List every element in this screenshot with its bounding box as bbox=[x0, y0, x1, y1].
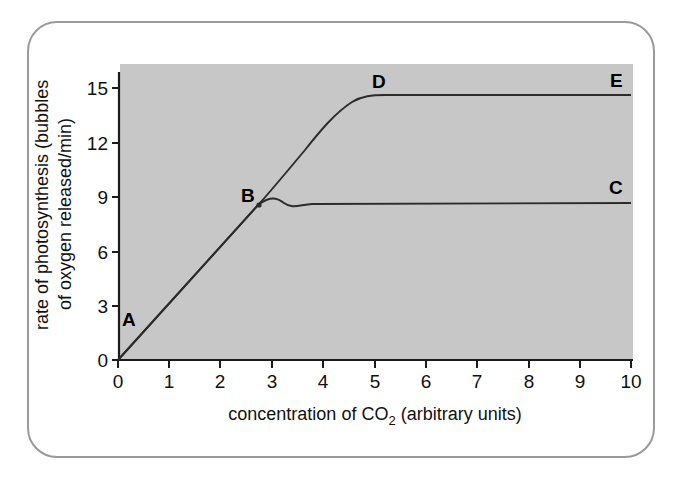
y-tick-label-12: 12 bbox=[87, 133, 108, 154]
point-label-e: E bbox=[610, 70, 623, 91]
y-tick-label-15: 15 bbox=[87, 78, 108, 99]
x-axis-ticks bbox=[118, 360, 631, 368]
x-axis-title-tail: (arbitrary units) bbox=[396, 404, 522, 424]
y-axis-title-line2: of oxygen released/min) bbox=[55, 118, 75, 310]
x-axis-title-subscript: 2 bbox=[388, 413, 395, 428]
x-tick-label-3: 3 bbox=[267, 371, 278, 392]
y-tick-label-9: 9 bbox=[97, 187, 108, 208]
chart-svg: 0 3 6 9 12 15 0 1 2 3 4 5 6 7 8 9 10 bbox=[0, 0, 674, 481]
y-axis-title-line1: rate of photosynthesis (bubbles bbox=[32, 80, 52, 330]
x-tick-label-1: 1 bbox=[164, 371, 175, 392]
y-tick-label-3: 3 bbox=[97, 296, 108, 317]
point-label-a: A bbox=[122, 309, 136, 330]
point-marker-b bbox=[256, 202, 261, 207]
x-tick-label-4: 4 bbox=[318, 371, 329, 392]
x-tick-label-10: 10 bbox=[620, 371, 641, 392]
y-tick-label-0: 0 bbox=[97, 350, 108, 371]
x-tick-label-8: 8 bbox=[524, 371, 535, 392]
x-tick-label-6: 6 bbox=[421, 371, 432, 392]
x-tick-label-2: 2 bbox=[215, 371, 226, 392]
y-tick-label-6: 6 bbox=[97, 242, 108, 263]
curve-lower-ABC bbox=[118, 199, 631, 360]
point-label-b: B bbox=[241, 185, 255, 206]
x-axis-title: concentration of CO2 (arbitrary units) bbox=[228, 404, 521, 428]
figure-container: 0 3 6 9 12 15 0 1 2 3 4 5 6 7 8 9 10 bbox=[0, 0, 674, 481]
point-label-c: C bbox=[609, 177, 623, 198]
x-tick-label-0: 0 bbox=[113, 371, 124, 392]
x-axis-title-main: concentration of CO bbox=[228, 404, 388, 424]
x-tick-label-9: 9 bbox=[575, 371, 586, 392]
x-tick-label-5: 5 bbox=[370, 371, 381, 392]
point-label-d: D bbox=[372, 71, 386, 92]
x-tick-label-7: 7 bbox=[472, 371, 483, 392]
curve-upper-ADE bbox=[118, 95, 631, 360]
